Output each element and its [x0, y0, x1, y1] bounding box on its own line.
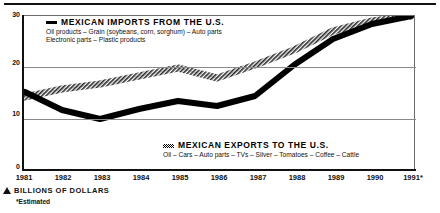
legend-exports-swatch-icon [163, 144, 174, 148]
units-footnote-label: BILLIONS OF DOLLARS [14, 186, 109, 195]
x-tick-1981: 1981 [16, 173, 33, 182]
x-axis-line [22, 169, 416, 171]
x-tick-1983: 1983 [94, 173, 111, 182]
x-tick-1991: 1991* [403, 173, 423, 182]
units-footnote: BILLIONS OF DOLLARS [3, 186, 109, 195]
y-tick-10: 10 [2, 110, 20, 117]
estimated-footnote: *Estimated [16, 198, 50, 206]
legend-imports-line1: Oil products – Grain (soybeans, corn, so… [46, 28, 346, 36]
x-tick-1987: 1987 [250, 173, 267, 182]
x-tick-1985: 1985 [172, 173, 189, 182]
legend-exports-line1: Oil – Cars – Auto parts – TVs – Silver –… [163, 151, 415, 159]
legend-imports: MEXICAN IMPORTS FROM THE U.S. Oil produc… [46, 17, 346, 43]
y-tick-0: 0 [2, 163, 20, 170]
legend-imports-line2: Electronic parts – Plastic products [46, 36, 346, 44]
y-tick-30: 30 [2, 11, 20, 18]
top-divider-rule [4, 3, 436, 5]
y-axis-line [22, 15, 24, 171]
x-tick-1982: 1982 [55, 173, 72, 182]
y-tick-20: 20 [2, 59, 20, 66]
x-tick-1988: 1988 [289, 173, 306, 182]
gridline-20 [23, 67, 416, 68]
x-tick-1984: 1984 [133, 173, 150, 182]
x-tick-1990: 1990 [367, 173, 384, 182]
legend-exports-title: MEXICAN EXPORTS TO THE U.S. [178, 140, 329, 151]
chart-figure: 30 20 10 0 MEXICAN IMPORTS FROM T [0, 0, 440, 213]
gridline-10 [23, 119, 416, 120]
legend-exports: MEXICAN EXPORTS TO THE U.S. Oil – Cars –… [163, 140, 415, 159]
x-tick-1989: 1989 [328, 173, 345, 182]
x-tick-1986: 1986 [211, 173, 228, 182]
x-axis-tick-labels: 1981 1982 1983 1984 1985 1986 1987 1988 … [22, 173, 416, 185]
legend-imports-title: MEXICAN IMPORTS FROM THE U.S. [61, 17, 224, 28]
triangle-bullet-icon [3, 187, 11, 194]
legend-imports-swatch-icon [46, 21, 57, 24]
